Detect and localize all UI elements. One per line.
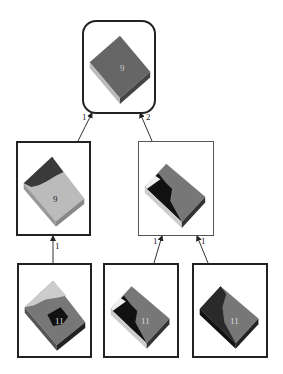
block-dark-top-light-bottom-icon: [18, 143, 89, 234]
node-bottom-left: 11: [17, 263, 92, 358]
node-label: 9: [53, 195, 58, 204]
node-right-mid: [138, 141, 214, 236]
block-black-left-grey-right-icon: [105, 265, 177, 356]
node-bottom-center: 11: [103, 263, 179, 358]
node-bottom-right: 11: [192, 263, 268, 358]
block-dark-left-grey-right-icon: [194, 265, 266, 356]
block-black-left-grey-right-icon: [139, 142, 213, 235]
block-all-grey-icon: [84, 22, 154, 112]
edge-label: 1: [153, 237, 158, 246]
block-light-top-black-blob-icon: [19, 265, 90, 356]
node-label: 11: [230, 317, 239, 326]
node-label: 11: [141, 317, 150, 326]
node-label: 9: [120, 64, 125, 73]
node-label: 11: [55, 317, 64, 326]
edge-label: 1: [201, 237, 206, 246]
node-root: 9: [82, 20, 156, 114]
edge-label: 2: [146, 113, 151, 122]
edge-label: 1: [82, 113, 87, 122]
edge-label: 1: [55, 242, 60, 251]
node-left-mid: 9: [16, 141, 91, 236]
